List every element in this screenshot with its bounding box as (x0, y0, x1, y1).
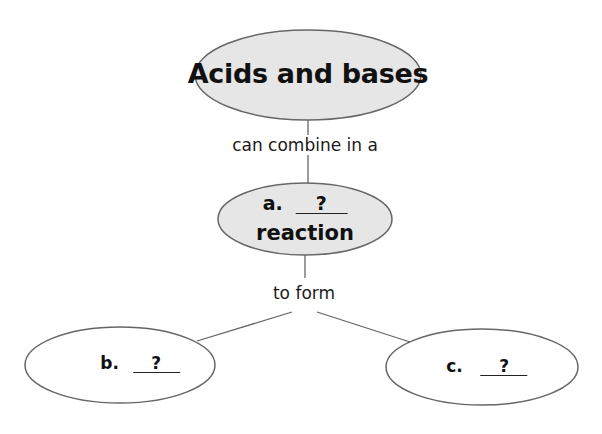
concept-map: Acids and bases can combine in a a. ? re… (0, 0, 602, 434)
link-label-combine: can combine in a (232, 135, 378, 155)
node-middle-suffix: reaction (256, 221, 354, 245)
node-right-blank: ? (481, 358, 528, 376)
node-left-blank: ? (133, 355, 180, 373)
node-right-content: c. ? (446, 356, 527, 376)
node-middle-first-line: a. ? (263, 192, 348, 214)
node-left-content: b. ? (100, 353, 180, 373)
connector-to-left (197, 312, 292, 341)
connector-to-right (317, 312, 410, 342)
link-label-form: to form (273, 283, 335, 303)
node-middle-prefix: a. (263, 192, 283, 214)
node-right-prefix: c. (446, 356, 463, 376)
node-left-prefix: b. (100, 353, 119, 373)
node-top-label: Acids and bases (188, 58, 429, 89)
node-middle-blank: ? (295, 194, 347, 214)
